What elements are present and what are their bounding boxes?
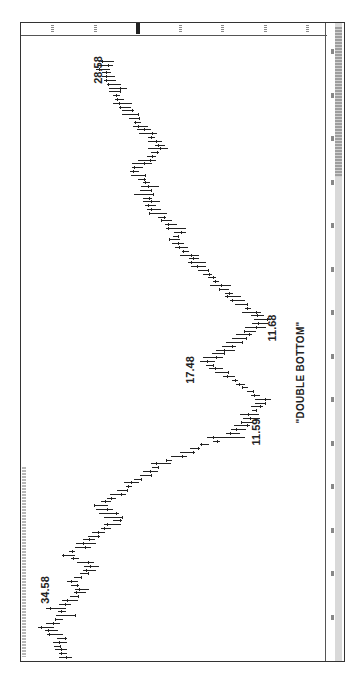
price-bar (122, 110, 134, 111)
price-bar (235, 304, 248, 305)
date-tick (331, 484, 334, 489)
price-bar (240, 414, 259, 415)
price-bar (77, 562, 94, 563)
price-bar (76, 543, 96, 544)
price-bar (138, 179, 146, 180)
price-bar (75, 547, 91, 548)
price-bar (38, 627, 54, 628)
price-bar (47, 634, 63, 635)
chart-header-text (22, 467, 26, 657)
price-bar (113, 520, 123, 521)
price-bar (110, 494, 126, 495)
price-bar (212, 353, 225, 354)
price-bar (138, 160, 156, 161)
price-bar (180, 452, 196, 453)
price-bar (213, 281, 219, 282)
price-bar (158, 217, 166, 218)
price-bar (115, 99, 124, 100)
price-bar (101, 501, 112, 502)
price-bar (155, 145, 166, 146)
price-bar (166, 460, 172, 461)
price-bar (223, 376, 235, 377)
price-bar (75, 589, 89, 590)
price-bar (148, 141, 162, 142)
price-bar (59, 657, 72, 658)
date-tick (331, 354, 334, 359)
price-bar (171, 456, 187, 457)
price-bar (67, 581, 78, 582)
price-bar (172, 243, 184, 244)
price-bar (134, 194, 153, 195)
price-bar (148, 137, 156, 138)
price-bar (56, 615, 76, 616)
price-bar (200, 361, 216, 362)
price-bar (209, 368, 223, 369)
price-bar (251, 406, 263, 407)
price-bar (151, 463, 170, 464)
price-bar (242, 312, 261, 313)
date-tick (331, 93, 334, 98)
price-bar (143, 182, 150, 183)
price-bar (122, 114, 139, 115)
price-bar (109, 88, 127, 89)
price-bar (57, 638, 67, 639)
price-bar (88, 536, 100, 537)
price-bar (94, 505, 108, 506)
price-bar (74, 577, 81, 578)
price-bar (139, 133, 157, 134)
price-bar (236, 384, 244, 385)
price-bar (132, 163, 152, 164)
price-bar (232, 380, 238, 381)
date-tick (331, 310, 334, 315)
price-bar (175, 247, 188, 248)
price-tick (94, 25, 97, 33)
price-bar (200, 444, 208, 445)
date-tick (331, 528, 334, 533)
price-bar (83, 570, 96, 571)
price-bar (255, 399, 271, 400)
date-tick (331, 49, 334, 54)
price-bar (140, 475, 153, 476)
price-bar (245, 327, 265, 328)
price-bar (46, 623, 60, 624)
price-bar (107, 84, 121, 85)
price-bar (99, 513, 119, 514)
price-bar (62, 555, 74, 556)
price-bar (236, 334, 251, 335)
price-bar (189, 258, 200, 259)
price-bar (71, 558, 79, 559)
price-bar (226, 433, 240, 434)
price-bar (113, 95, 119, 96)
price-bar (208, 277, 216, 278)
price-bar (151, 152, 159, 153)
date-tick (331, 615, 334, 620)
price-bar (55, 619, 63, 620)
price-bar (84, 566, 99, 567)
price-bar (203, 357, 222, 358)
price-tick (264, 25, 267, 33)
price-bar (107, 498, 116, 499)
copyright-text (335, 27, 342, 177)
price-bar (173, 236, 180, 237)
price-bar (126, 486, 132, 487)
price-bar (251, 395, 261, 396)
price-bar (119, 107, 131, 108)
price-annotation: 17.48 (184, 356, 196, 384)
price-annotation: 11.68 (266, 315, 278, 342)
price-bar (71, 585, 79, 586)
price-annotation: 28.58 (92, 56, 104, 84)
price-bar (92, 532, 104, 533)
price-bar (251, 315, 264, 316)
price-bar (109, 91, 120, 92)
price-tick (51, 25, 54, 33)
price-bar (232, 338, 246, 339)
price-bar (143, 471, 158, 472)
price-bar (143, 201, 160, 202)
price-bar (210, 285, 230, 286)
price-bar (203, 274, 212, 275)
price-bar (244, 331, 256, 332)
price-bar (247, 391, 254, 392)
price-bar (58, 611, 65, 612)
price-bar (230, 300, 246, 301)
date-tick (331, 571, 334, 576)
